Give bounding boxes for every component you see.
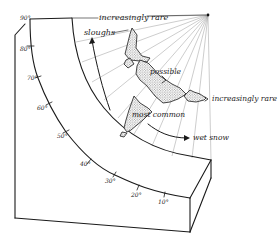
label-possible: possible: [150, 67, 182, 76]
tick-30: 30°: [105, 177, 116, 184]
zone-rare-right: [184, 90, 206, 102]
label-increasingly-rare-top: increasingly rare: [99, 13, 168, 22]
wet-snow-arrowhead: [184, 135, 190, 141]
tick-50: 50°: [57, 132, 68, 139]
tick-80: 80°: [20, 45, 31, 52]
tick-90: 90°: [20, 14, 31, 21]
slope-block: [15, 18, 211, 232]
tick-60: 60°: [37, 104, 48, 111]
tick-20: 20°: [130, 191, 142, 198]
tick-40: 40°: [79, 160, 91, 167]
convergence-point: [207, 14, 210, 17]
slope-avalanche-diagram: 90° 80° 70° 60° 50° 40° 30° 20° 10°: [0, 0, 278, 243]
label-increasingly-rare-right: increasingly rare: [212, 94, 277, 103]
label-wet-snow: wet snow: [193, 133, 229, 142]
tick-10: 10°: [158, 198, 169, 205]
zone-rare-upper: [125, 28, 150, 62]
label-most-common: most common: [132, 110, 185, 119]
label-sloughs: sloughs: [84, 28, 115, 37]
tick-70: 70°: [27, 74, 38, 81]
